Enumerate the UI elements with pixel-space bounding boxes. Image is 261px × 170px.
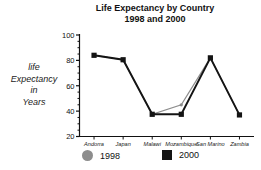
data-point-marker [237, 112, 242, 117]
circle-marker-icon [82, 150, 93, 161]
y-tick-label: 20 [66, 132, 74, 141]
x-axis-tick-labels: AndorraJapanMalawiMozambiqueSan MarinoZa… [83, 141, 249, 147]
data-point-marker [91, 53, 96, 58]
legend-label-2000: 2000 [179, 150, 199, 160]
data-point-marker [121, 57, 126, 62]
data-point-marker [180, 103, 183, 106]
series-line [94, 55, 239, 115]
series-line [94, 55, 239, 115]
square-marker-icon [162, 150, 172, 160]
data-series-layer [91, 53, 242, 118]
x-tick-label: Andorra [83, 141, 104, 147]
y-tick-label: 100 [62, 31, 75, 40]
legend-item-1998: 1998 [82, 150, 120, 161]
x-tick-label: Japan [115, 141, 131, 147]
life-expectancy-chart: Life Expectancy by Country 1998 and 2000… [0, 0, 261, 170]
series-1998 [92, 54, 241, 117]
data-point-marker [150, 112, 155, 117]
x-axis: AndorraJapanMalawiMozambiqueSan MarinoZa… [80, 137, 255, 148]
plot-area: 20406080100 AndorraJapanMalawiMozambique… [0, 0, 261, 170]
x-tick-label: Mozambique [165, 141, 197, 147]
x-tick-label: San Marino [196, 141, 225, 147]
series-2000 [91, 53, 242, 118]
y-axis-tick-labels: 20406080100 [62, 31, 75, 142]
legend-item-2000: 2000 [162, 150, 199, 160]
y-tick-label: 40 [66, 107, 74, 116]
y-axis: 20406080100 [62, 31, 80, 142]
y-tick-label: 60 [66, 82, 74, 91]
data-point-marker [208, 55, 213, 60]
chart-legend: 1998 2000 [62, 150, 252, 168]
data-point-marker [179, 112, 184, 117]
x-tick-label: Zambia [229, 141, 249, 147]
legend-label-1998: 1998 [100, 151, 120, 161]
y-tick-label: 80 [66, 56, 74, 65]
x-tick-label: Malawi [143, 141, 161, 147]
